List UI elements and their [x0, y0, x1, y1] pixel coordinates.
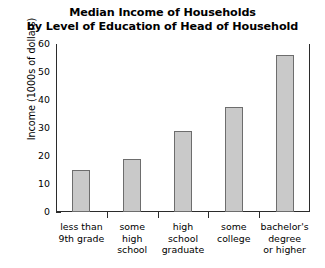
chart-title-line-2: by Level of Education of Head of Househo… — [0, 20, 325, 34]
x-axis-label: somecollege — [208, 221, 259, 244]
y-tick-label: 60 — [22, 39, 50, 48]
bar — [123, 159, 141, 212]
x-axis-tick — [158, 212, 159, 218]
y-axis-title: Income (1000s of dollars) — [27, 0, 37, 159]
y-tick-label: 10 — [22, 179, 50, 188]
bar — [276, 55, 294, 212]
x-axis-label-line: 9th grade — [56, 233, 107, 245]
bar-chart: Median Income of Households by Level of … — [0, 0, 325, 268]
x-axis-label-line: some — [208, 221, 259, 233]
x-axis-label: highschoolgraduate — [158, 221, 209, 256]
bars-group — [56, 44, 310, 212]
x-axis-tick — [107, 212, 108, 218]
x-axis-label-line: less than — [56, 221, 107, 233]
x-axis-label-line: high — [107, 233, 158, 245]
y-tick-label: 40 — [22, 95, 50, 104]
x-axis-labels: less than9th gradesomehighschoolhighscho… — [56, 221, 310, 267]
chart-title-line-1: Median Income of Households — [69, 6, 256, 19]
x-axis-label: bachelor'sdegreeor higher — [259, 221, 310, 256]
x-axis-tick — [208, 212, 209, 218]
x-axis-label-line: bachelor's — [259, 221, 310, 233]
chart-title: Median Income of Households by Level of … — [0, 6, 325, 34]
bar — [174, 131, 192, 212]
y-tick-label: 30 — [22, 123, 50, 132]
bar — [72, 170, 90, 212]
x-axis-label-line: college — [208, 233, 259, 245]
y-tick-mark — [56, 212, 61, 213]
bar — [225, 107, 243, 212]
x-axis-label-line: high — [158, 221, 209, 233]
y-tick-label: 20 — [22, 151, 50, 160]
x-axis-label-line: or higher — [259, 244, 310, 256]
x-axis-label-line: some — [107, 221, 158, 233]
y-tick-label: 50 — [22, 67, 50, 76]
x-axis-label-line: school — [107, 244, 158, 256]
x-axis-label: somehighschool — [107, 221, 158, 256]
y-tick-label: 0 — [22, 207, 50, 216]
x-axis-tick — [259, 212, 260, 218]
x-axis-label-line: school — [158, 233, 209, 245]
x-axis-label-line: graduate — [158, 244, 209, 256]
x-axis-label: less than9th grade — [56, 221, 107, 244]
x-axis-label-line: degree — [259, 233, 310, 245]
